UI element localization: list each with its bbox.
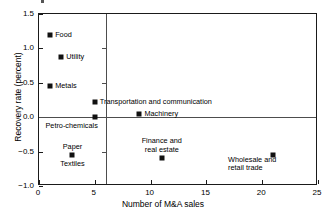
- data-point-label: Metals: [55, 82, 77, 90]
- inner-tick-mark: [102, 152, 106, 153]
- x-tick-label: 10: [145, 188, 154, 197]
- scan-artifact: [41, 0, 44, 3]
- y-tick-label: 0.0: [8, 112, 34, 121]
- y-tick-mark: [39, 83, 43, 84]
- inner-tick-mark: [102, 117, 106, 118]
- data-point-label: Petro-chemicals: [45, 122, 97, 130]
- plot-area: FoodUtilityMetalsTransportation and comm…: [38, 13, 317, 185]
- inner-tick-mark: [102, 48, 106, 49]
- y-tick-label: 1.0: [8, 43, 34, 52]
- data-point-label: Paper: [63, 143, 82, 151]
- data-point-label: Textiles: [60, 160, 84, 168]
- inner-tick-mark: [102, 83, 106, 84]
- scatter-chart: Recovery rate (percent) Number of M&A sa…: [0, 0, 326, 214]
- data-point-marker: [92, 115, 97, 120]
- x-tick-mark: [318, 180, 319, 184]
- data-point-label: Food: [55, 31, 72, 39]
- data-point-marker: [70, 153, 75, 158]
- y-tick-mark: [39, 14, 43, 15]
- data-point-marker: [48, 84, 53, 89]
- data-point-marker: [92, 100, 97, 105]
- y-tick-label: 1.5: [8, 9, 34, 18]
- x-tick-mark: [95, 180, 96, 184]
- data-point-label: Utility: [66, 53, 84, 61]
- y-tick-label: −0.5: [8, 146, 34, 155]
- y-tick-mark: [39, 48, 43, 49]
- x-axis-title: Number of M&A sales: [0, 199, 326, 209]
- x-tick-mark: [151, 180, 152, 184]
- data-point-label: Transportation and communication: [100, 98, 212, 106]
- y-tick-label: 0.5: [8, 77, 34, 86]
- x-tick-label: 5: [92, 188, 96, 197]
- x-tick-mark: [262, 180, 263, 184]
- data-point-label: Machinery: [144, 110, 178, 118]
- x-tick-label: 25: [313, 188, 322, 197]
- x-tick-mark: [39, 180, 40, 184]
- data-point-marker: [159, 156, 164, 161]
- y-tick-mark: [39, 186, 43, 187]
- x-tick-mark: [206, 180, 207, 184]
- data-point-label: Finance and real estate: [142, 137, 182, 153]
- y-tick-label: −1.0: [8, 181, 34, 190]
- data-point-marker: [59, 54, 64, 59]
- data-point-marker: [137, 111, 142, 116]
- data-point-marker: [48, 32, 53, 37]
- y-tick-mark: [39, 152, 43, 153]
- data-point-label: Wholesale and retail trade: [228, 156, 276, 172]
- x-tick-label: 15: [201, 188, 210, 197]
- x-tick-label: 0: [36, 188, 40, 197]
- x-tick-label: 20: [257, 188, 266, 197]
